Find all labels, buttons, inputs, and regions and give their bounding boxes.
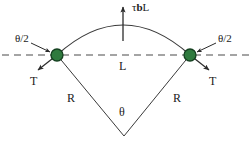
- pinning-node-right: [184, 49, 196, 61]
- radius-label-right: R: [173, 92, 181, 104]
- applied-force-label: τbL: [132, 2, 149, 13]
- half-angle-label-right: θ/2: [218, 33, 232, 44]
- figure-canvas: [0, 0, 252, 144]
- tension-label-left: T: [30, 75, 37, 87]
- angle-pointer-left: [31, 43, 50, 52]
- pinning-node-left: [51, 49, 63, 61]
- tension-label-right: T: [209, 75, 216, 87]
- segment-length-label: L: [119, 60, 126, 72]
- dislocation-bowing-diagram: τbL θ/2 θ/2 T T L R R θ: [0, 0, 252, 144]
- angle-pointer-right: [197, 43, 216, 52]
- applied-force-length: L: [143, 1, 150, 13]
- subtended-angle-label: θ: [119, 106, 125, 118]
- half-angle-label-left: θ/2: [15, 33, 29, 44]
- radius-label-left: R: [67, 92, 75, 104]
